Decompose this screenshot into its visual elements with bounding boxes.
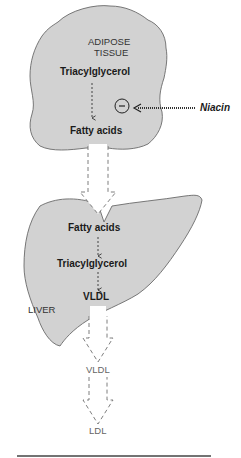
liver-fatty-acids: Fatty acids <box>68 222 120 233</box>
niacin-label: Niacin <box>200 102 230 113</box>
liver-title: LIVER <box>28 304 55 315</box>
adipose-fatty-acids: Fatty acids <box>70 125 122 136</box>
circulating-ldl: LDL <box>89 425 106 436</box>
liver-triacylglycerol: Triacylglycerol <box>57 258 127 269</box>
liver-shape <box>24 195 202 346</box>
transport-arrow-vldl <box>83 316 113 362</box>
transport-arrow-ldl <box>83 377 113 424</box>
adipose-title-line2: TISSUE <box>94 47 128 58</box>
adipose-triacylglycerol: Triacylglycerol <box>60 66 130 77</box>
liver-vldl: VLDL <box>83 291 109 302</box>
adipose-title-line1: ADIPOSE <box>88 36 130 47</box>
circulating-vldl: VLDL <box>86 364 110 375</box>
